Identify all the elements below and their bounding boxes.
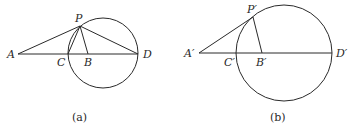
label-B: B bbox=[83, 56, 92, 69]
figure-b: A′ C′ B′ D′ P′ (b) bbox=[183, 3, 348, 124]
label-P: P bbox=[74, 12, 83, 25]
label-P-prime: P′ bbox=[246, 3, 257, 16]
caption-b: (b) bbox=[270, 111, 286, 124]
caption-a: (a) bbox=[72, 111, 87, 124]
segment-PB-prime bbox=[253, 17, 262, 53]
label-A: A bbox=[6, 48, 15, 61]
label-A-prime: A′ bbox=[183, 47, 195, 60]
label-D-prime: D′ bbox=[335, 47, 348, 60]
segment-PB bbox=[80, 26, 88, 54]
label-B-prime: B′ bbox=[255, 56, 267, 69]
figure-a: A C B D P (a) bbox=[6, 12, 152, 124]
label-C-prime: C′ bbox=[224, 56, 235, 69]
label-D: D bbox=[142, 48, 152, 61]
label-C: C bbox=[57, 56, 66, 69]
segment-AP-prime bbox=[199, 17, 253, 53]
geometry-figure: A C B D P (a) A′ C′ B′ D′ P′ (b) bbox=[0, 0, 356, 131]
